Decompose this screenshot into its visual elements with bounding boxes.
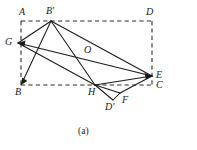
segment-H-Dprime — [95, 85, 113, 100]
vertex-label-D: D — [146, 7, 153, 17]
vertex-label-F: F — [122, 95, 128, 105]
vertex-label-A: A — [19, 7, 25, 17]
segment-H-F — [95, 85, 120, 93]
solid-segments — [18, 21, 152, 100]
figure-canvas — [0, 0, 197, 150]
segment-Dprime-F — [113, 93, 120, 100]
vertex-label-C: C — [156, 80, 163, 90]
segment-Bprime-E — [51, 21, 152, 76]
vertex-label-G: G — [5, 37, 12, 47]
figure-caption: (a) — [78, 126, 89, 136]
vertex-label-H: H — [88, 87, 95, 97]
vertex-label-B: B — [15, 87, 21, 97]
geometry-figure: A B′ D G O E C B H F D′ (a) — [0, 0, 197, 150]
arrowhead-at-G — [18, 40, 26, 46]
vertex-label-d-prime: D′ — [105, 102, 114, 112]
vertex-label-b-prime: B′ — [46, 6, 54, 16]
vertex-label-O: O — [84, 45, 91, 55]
